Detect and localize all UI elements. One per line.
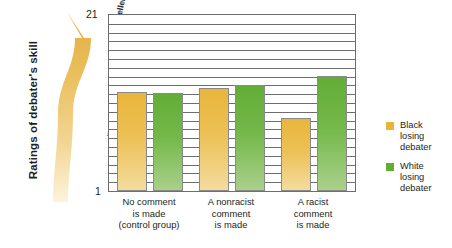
x-axis-label-line: A racist bbox=[265, 196, 361, 208]
legend-label-line: Black bbox=[400, 120, 452, 131]
x-axis-label-line: comment bbox=[265, 208, 361, 220]
legend-item-white: Whitelosingdebater bbox=[386, 161, 452, 195]
bar-group bbox=[109, 15, 355, 191]
legend-swatch-black bbox=[386, 122, 394, 130]
legend-label: Whitelosingdebater bbox=[400, 161, 452, 195]
y-axis-tick-bottom: 1 bbox=[95, 185, 101, 197]
x-axis-category-labels: No commentis made(control group)A nonrac… bbox=[108, 196, 356, 246]
bar-white-0 bbox=[153, 93, 183, 191]
bar-black-0 bbox=[117, 92, 147, 191]
x-axis-label-2: A racistcommentis made bbox=[265, 196, 361, 231]
legend-label: Blacklosingdebater bbox=[400, 120, 452, 154]
legend-item-black: Blacklosingdebater bbox=[386, 120, 452, 154]
legend-label-line: White bbox=[400, 161, 452, 172]
plot-area bbox=[108, 14, 356, 192]
chart-figure: Ratings of debater's skill "Excellent" "… bbox=[0, 0, 452, 248]
y-axis-tick-top: 21 bbox=[86, 8, 98, 20]
bar-black-2 bbox=[281, 118, 311, 191]
legend-label-line: debater bbox=[400, 142, 452, 153]
legend-label-line: debater bbox=[400, 183, 452, 194]
legend-label-line: losing bbox=[400, 131, 452, 142]
y-axis-title: Ratings of debater's skill bbox=[27, 15, 39, 205]
bar-white-2 bbox=[317, 76, 347, 191]
chart-legend: BlacklosingdebaterWhitelosingdebater bbox=[386, 120, 452, 201]
x-axis-label-line: is made bbox=[265, 219, 361, 231]
scale-arrow-graphic: "Excellent" "Very poor" bbox=[48, 8, 96, 204]
bar-white-1 bbox=[235, 85, 265, 191]
legend-label-line: losing bbox=[400, 172, 452, 183]
legend-swatch-white bbox=[386, 163, 394, 171]
bar-black-1 bbox=[199, 88, 229, 191]
